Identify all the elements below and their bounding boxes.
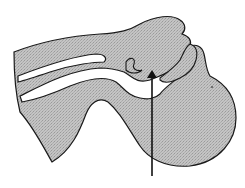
speck-mark xyxy=(211,86,213,88)
diagram-svg xyxy=(0,0,245,188)
anatomical-diagram xyxy=(0,0,245,188)
